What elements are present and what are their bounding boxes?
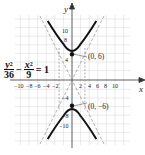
svg-text:6: 6 xyxy=(96,83,99,89)
equals-one: = 1 xyxy=(36,64,49,75)
svg-text:−4: −4 xyxy=(43,83,49,89)
vertex-upper xyxy=(70,52,74,56)
svg-text:−10: −10 xyxy=(59,123,68,129)
svg-text:−10: −10 xyxy=(14,83,23,89)
svg-text:10: 10 xyxy=(112,83,118,89)
svg-text:−8: −8 xyxy=(62,113,68,119)
vertex-lower-label: (0, −6) xyxy=(88,102,109,111)
hyperbola-equation: y2 36 − x2 9 = 1 xyxy=(4,60,49,79)
x-axis-label: x xyxy=(138,84,143,94)
svg-text:−8: −8 xyxy=(26,83,32,89)
svg-text:−4: −4 xyxy=(62,95,68,101)
svg-text:2: 2 xyxy=(79,83,82,89)
svg-text:10: 10 xyxy=(62,28,68,34)
svg-text:8: 8 xyxy=(64,37,67,43)
vertex-lower xyxy=(70,104,74,108)
svg-text:−2: −2 xyxy=(52,83,58,89)
vertex-upper-label: (0, 6) xyxy=(88,52,105,61)
fraction-y: y2 36 xyxy=(4,60,14,79)
svg-text:4: 4 xyxy=(88,83,91,89)
fraction-x: x2 9 xyxy=(24,60,34,79)
minus-sign: − xyxy=(16,64,22,75)
y-axis-arrow-icon xyxy=(70,3,75,9)
svg-text:8: 8 xyxy=(104,83,107,89)
x-tick-labels: −10 −8 −6 −4 −2 2 4 6 8 10 xyxy=(14,83,118,89)
svg-text:−6: −6 xyxy=(34,83,40,89)
y-axis-label: y xyxy=(63,4,68,14)
svg-text:4: 4 xyxy=(65,57,68,63)
x-axis-arrow-icon xyxy=(139,78,145,83)
